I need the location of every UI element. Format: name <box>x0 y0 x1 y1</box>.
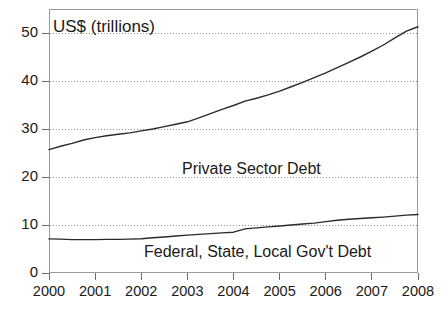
y-tick-label-0: 0 <box>4 263 38 280</box>
series-line-government-debt <box>49 214 418 239</box>
axis-unit-label: US$ (trillions) <box>53 17 155 37</box>
y-tick-marks-group <box>42 33 49 273</box>
x-tick-label-2003: 2003 <box>163 283 211 299</box>
x-tick-label-2000: 2000 <box>25 283 73 299</box>
x-tick-label-2008: 2008 <box>394 283 442 299</box>
y-tick-label-40: 40 <box>4 71 38 88</box>
series-line-private-sector-debt <box>49 27 418 150</box>
y-tick-label-50: 50 <box>4 23 38 40</box>
x-tick-marks-group <box>49 273 418 280</box>
x-tick-label-2002: 2002 <box>117 283 165 299</box>
plot-canvas <box>0 0 447 318</box>
y-tick-label-10: 10 <box>4 215 38 232</box>
x-tick-label-2004: 2004 <box>210 283 258 299</box>
y-tick-label-30: 30 <box>4 119 38 136</box>
series-label-private-sector-debt: Private Sector Debt <box>182 160 321 178</box>
gridlines-group <box>50 33 417 225</box>
debt-line-chart: US$ (trillions) Private Sector Debt Fede… <box>0 0 447 318</box>
x-tick-label-2005: 2005 <box>256 283 304 299</box>
y-tick-label-20: 20 <box>4 167 38 184</box>
series-paths-group <box>49 27 418 240</box>
x-tick-label-2001: 2001 <box>71 283 119 299</box>
x-tick-label-2006: 2006 <box>302 283 350 299</box>
series-label-government-debt: Federal, State, Local Gov't Debt <box>144 243 371 261</box>
x-tick-label-2007: 2007 <box>348 283 396 299</box>
